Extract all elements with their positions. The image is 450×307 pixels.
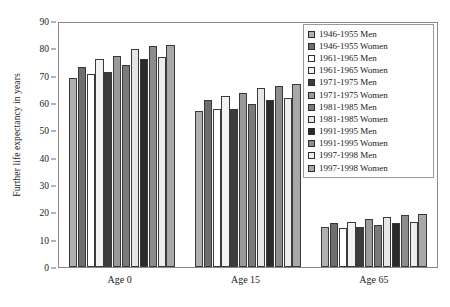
legend-item-label: 1971-1975 Men bbox=[319, 78, 377, 87]
legend-swatch-icon bbox=[308, 116, 315, 123]
bar bbox=[392, 223, 400, 267]
bar bbox=[257, 88, 265, 267]
x-axis-tick-labels: Age 0Age 15Age 65 bbox=[58, 274, 438, 294]
bar bbox=[195, 111, 203, 267]
legend-swatch-icon bbox=[308, 128, 315, 135]
legend-swatch-icon bbox=[308, 104, 315, 111]
bar bbox=[410, 222, 418, 267]
bar bbox=[104, 72, 112, 267]
bar bbox=[284, 98, 292, 267]
y-axis-tickmark-70 bbox=[51, 76, 56, 77]
legend-item-label: 1997-1998 Men bbox=[319, 151, 377, 160]
legend-item[interactable]: 1997-1998 Men bbox=[308, 150, 429, 162]
bar bbox=[356, 227, 364, 267]
y-axis-tick-80: 80 bbox=[9, 44, 49, 54]
bar bbox=[401, 215, 409, 267]
y-axis-tick-20: 20 bbox=[9, 208, 49, 218]
y-axis-tick-70: 70 bbox=[9, 72, 49, 82]
legend-swatch-icon bbox=[308, 165, 315, 172]
bar bbox=[275, 86, 283, 267]
legend-swatch-icon bbox=[308, 92, 315, 99]
bar bbox=[204, 100, 212, 267]
y-axis-tickmark-90 bbox=[51, 22, 56, 23]
y-axis-tick-30: 30 bbox=[9, 181, 49, 191]
legend-item-label: 1961-1965 Men bbox=[319, 54, 377, 63]
y-axis-tickmark-60 bbox=[51, 104, 56, 105]
y-axis-tickmark-0 bbox=[51, 268, 56, 269]
bar bbox=[131, 49, 139, 267]
legend-swatch-icon bbox=[308, 43, 315, 50]
bar-group-age-15 bbox=[195, 23, 302, 267]
bar bbox=[230, 109, 238, 267]
legend-item[interactable]: 1991-1995 Men bbox=[308, 126, 429, 138]
bar bbox=[140, 59, 148, 267]
x-axis-label-age-0: Age 0 bbox=[108, 274, 132, 285]
y-axis-tick-90: 90 bbox=[9, 17, 49, 27]
bar bbox=[330, 223, 338, 267]
legend-swatch-icon bbox=[308, 31, 315, 38]
legend-item[interactable]: 1981-1985 Men bbox=[308, 101, 429, 113]
legend-item[interactable]: 1946-1955 Women bbox=[308, 40, 429, 52]
bar bbox=[149, 46, 157, 267]
bar bbox=[321, 227, 329, 267]
bar bbox=[292, 84, 300, 267]
bar bbox=[69, 78, 77, 267]
legend-item[interactable]: 1997-1998 Women bbox=[308, 162, 429, 174]
y-axis-tick-60: 60 bbox=[9, 99, 49, 109]
y-axis-tickmark-40 bbox=[51, 158, 56, 159]
legend-item[interactable]: 1971-1975 Women bbox=[308, 89, 429, 101]
bar bbox=[113, 56, 121, 267]
bar bbox=[418, 214, 426, 267]
bar bbox=[374, 225, 382, 267]
life-expectancy-bar-chart: Further life expectancy in years 0102030… bbox=[0, 0, 450, 307]
chart-legend: 1946-1955 Men1946-1955 Women1961-1965 Me… bbox=[303, 24, 434, 178]
bar-group-age-0 bbox=[69, 23, 176, 267]
legend-item-label: 1946-1955 Women bbox=[319, 42, 388, 51]
legend-item-label: 1971-1975 Women bbox=[319, 91, 388, 100]
bar bbox=[122, 65, 130, 267]
legend-item-label: 1997-1998 Women bbox=[319, 164, 388, 173]
legend-item[interactable]: 1981-1985 Women bbox=[308, 113, 429, 125]
bar bbox=[166, 45, 174, 267]
y-axis-tickmark-30 bbox=[51, 186, 56, 187]
legend-item-label: 1946-1955 Men bbox=[319, 30, 377, 39]
bar bbox=[383, 217, 391, 267]
legend-item[interactable]: 1961-1965 Women bbox=[308, 65, 429, 77]
bar bbox=[347, 222, 355, 267]
bar bbox=[339, 228, 347, 267]
bar bbox=[158, 57, 166, 267]
y-axis-tick-10: 10 bbox=[9, 236, 49, 246]
bar bbox=[266, 100, 274, 267]
legend-swatch-icon bbox=[308, 67, 315, 74]
bar bbox=[365, 219, 373, 267]
bar bbox=[87, 74, 95, 267]
legend-swatch-icon bbox=[308, 55, 315, 62]
x-axis-label-age-65: Age 65 bbox=[359, 274, 388, 285]
legend-item[interactable]: 1971-1975 Men bbox=[308, 77, 429, 89]
bar bbox=[248, 104, 256, 267]
y-axis-tickmark-80 bbox=[51, 49, 56, 50]
legend-swatch-icon bbox=[308, 140, 315, 147]
y-axis-tickmark-10 bbox=[51, 240, 56, 241]
legend-item[interactable]: 1991-1995 Women bbox=[308, 138, 429, 150]
legend-item-label: 1961-1965 Women bbox=[319, 66, 388, 75]
legend-item[interactable]: 1961-1965 Men bbox=[308, 52, 429, 64]
y-axis-tickmark-20 bbox=[51, 213, 56, 214]
legend-swatch-icon bbox=[308, 152, 315, 159]
y-axis-tick-50: 50 bbox=[9, 126, 49, 136]
legend-item-label: 1991-1995 Men bbox=[319, 127, 377, 136]
bar bbox=[221, 96, 229, 267]
legend-item-label: 1991-1995 Women bbox=[319, 139, 388, 148]
bar bbox=[95, 59, 103, 267]
bar bbox=[213, 109, 221, 267]
legend-item[interactable]: 1946-1955 Men bbox=[308, 28, 429, 40]
bar bbox=[78, 67, 86, 267]
legend-item-label: 1981-1985 Women bbox=[319, 115, 388, 124]
y-axis-tick-labels: 0102030405060708090 bbox=[0, 22, 56, 268]
x-axis-label-age-15: Age 15 bbox=[231, 274, 260, 285]
bar bbox=[239, 93, 247, 267]
y-axis-tick-0: 0 bbox=[9, 263, 49, 273]
y-axis-tick-40: 40 bbox=[9, 154, 49, 164]
y-axis-tickmark-50 bbox=[51, 131, 56, 132]
legend-swatch-icon bbox=[308, 79, 315, 86]
